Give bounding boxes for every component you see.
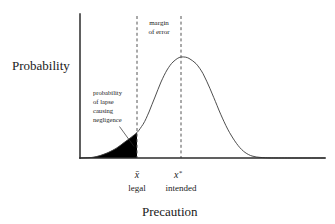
figure-canvas: Probability Precaution margin of error p… xyxy=(0,0,335,224)
intended-precaution-symbol-superscript: * xyxy=(178,169,182,177)
lapse-annotation-line-1: probability xyxy=(93,89,123,96)
legal-standard-symbol-glyph: x̄ xyxy=(134,169,140,180)
probability-density-curve xyxy=(80,57,325,158)
intended-precaution-label: intended xyxy=(166,183,197,193)
margin-of-error-annotation-line-2: of error xyxy=(148,28,170,36)
lapse-probability-shaded-area xyxy=(80,133,137,158)
probability-axis-title: Probability xyxy=(12,58,70,73)
lapse-annotation-line-4: negligence xyxy=(93,116,122,123)
lapse-annotation-line-2: of lapse xyxy=(93,98,114,105)
probability-precaution-figure: Probability Precaution margin of error p… xyxy=(0,0,335,224)
intended-precaution-symbol: x* xyxy=(173,169,182,180)
legal-standard-symbol: x̄ xyxy=(134,169,140,180)
lapse-annotation-line-3: causing xyxy=(93,107,114,114)
margin-of-error-annotation-line-1: margin xyxy=(149,19,169,27)
precaution-axis-title: Precaution xyxy=(142,204,198,219)
legal-standard-label: legal xyxy=(128,183,146,193)
